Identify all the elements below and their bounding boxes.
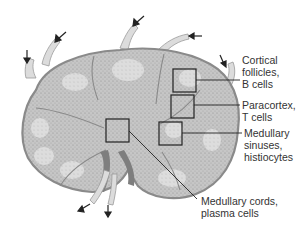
- label-medullary-sinuses: Medullary sinuses, histiocytes: [244, 127, 293, 163]
- label-medullary-cords: Medullary cords, plasma cells: [201, 195, 278, 219]
- label-paracortex: Paracortex, T cells: [242, 99, 296, 123]
- label-cortical-follicles: Cortical follicles, B cells: [242, 54, 279, 90]
